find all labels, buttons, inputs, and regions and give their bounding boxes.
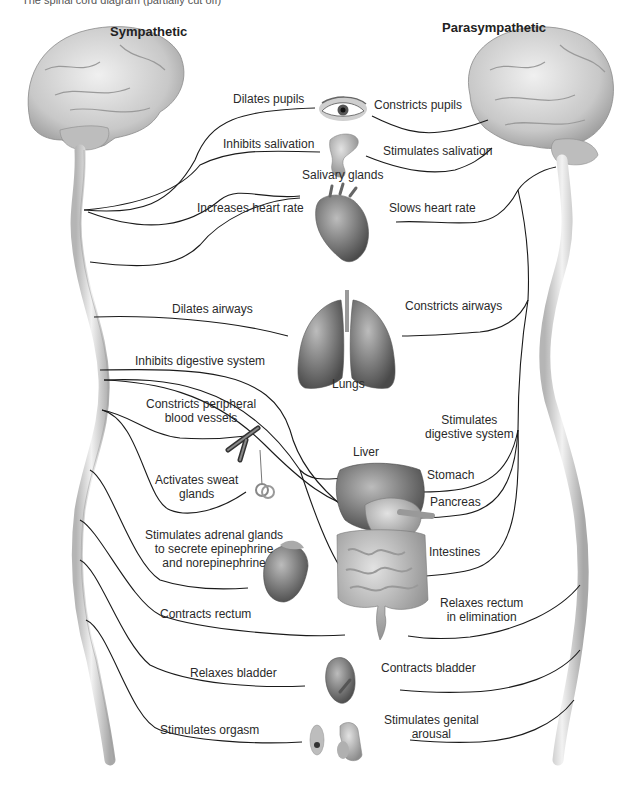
label-stomach: Stomach	[427, 468, 474, 482]
label-relaxes-bladder: Relaxes bladder	[190, 666, 277, 680]
sympathetic-brain	[28, 27, 184, 150]
label-stimulates-digestive-line2: digestive system	[425, 427, 514, 441]
label-dilates-pupils: Dilates pupils	[233, 92, 304, 106]
label-liver: Liver	[353, 445, 379, 459]
parasympathetic-spinal-cord	[545, 160, 583, 760]
label-stimulates-genital-line2: arousal	[384, 727, 479, 741]
sweat-gland-organ	[256, 450, 274, 498]
label-stimulates-genital-line1: Stimulates genital	[384, 713, 479, 727]
eye-organ	[319, 97, 367, 121]
label-intestines: Intestines	[429, 545, 480, 559]
label-relaxes-rectum: Relaxes rectum in elimination	[440, 596, 523, 624]
bladder-organ	[326, 658, 355, 704]
sympathetic-header: Sympathetic	[110, 24, 187, 39]
label-constricts-vessels-line1: Constricts peripheral	[146, 397, 256, 411]
label-constricts-vessels: Constricts peripheral blood vessels	[146, 397, 256, 425]
lungs-organ	[298, 290, 395, 388]
label-stimulates-adrenal-line1: Stimulates adrenal glands	[145, 528, 283, 542]
label-inhibits-salivation: Inhibits salivation	[223, 137, 314, 151]
label-relaxes-rectum-line2: in elimination	[440, 610, 523, 624]
label-stimulates-genital: Stimulates genital arousal	[384, 713, 479, 741]
label-stimulates-orgasm: Stimulates orgasm	[160, 723, 259, 737]
label-contracts-bladder: Contracts bladder	[381, 661, 476, 675]
label-activates-sweat: Activates sweat glands	[155, 473, 238, 501]
label-constricts-vessels-line2: blood vessels	[146, 411, 256, 425]
label-stimulates-digestive-line1: Stimulates	[425, 413, 514, 427]
autonomic-nervous-system-diagram	[0, 0, 632, 790]
label-stimulates-salivation: Stimulates salivation	[383, 144, 492, 158]
label-increases-heart-rate: Increases heart rate	[197, 201, 304, 215]
label-stimulates-adrenal-line2: to secrete epinephrine	[145, 542, 283, 556]
label-activates-sweat-line2: glands	[155, 487, 238, 501]
heart-organ	[316, 184, 369, 262]
label-slows-heart-rate: Slows heart rate	[389, 201, 476, 215]
female-genital-organ	[310, 725, 324, 755]
label-stimulates-digestive: Stimulates digestive system	[425, 413, 514, 441]
label-constricts-pupils: Constricts pupils	[374, 98, 462, 112]
label-salivary-glands: Salivary glands	[302, 168, 383, 182]
cut-off-caption: The spinal cord diagram (partially cut o…	[22, 0, 221, 6]
parasympathetic-header: Parasympathetic	[442, 20, 546, 35]
label-lungs: Lungs	[332, 377, 365, 391]
label-relaxes-rectum-line1: Relaxes rectum	[440, 596, 523, 610]
male-genital-organ	[337, 723, 362, 761]
label-stimulates-adrenal: Stimulates adrenal glands to secrete epi…	[145, 528, 283, 570]
label-dilates-airways: Dilates airways	[172, 302, 253, 316]
label-contracts-rectum: Contracts rectum	[160, 607, 251, 621]
label-pancreas: Pancreas	[430, 495, 481, 509]
label-activates-sweat-line1: Activates sweat	[155, 473, 238, 487]
label-constricts-airways: Constricts airways	[405, 299, 502, 313]
label-stimulates-adrenal-line3: and norepinephrine	[145, 556, 283, 570]
blood-vessel-organ	[228, 428, 258, 460]
intestines-organ	[337, 530, 428, 640]
label-inhibits-digestive: Inhibits digestive system	[135, 354, 265, 368]
